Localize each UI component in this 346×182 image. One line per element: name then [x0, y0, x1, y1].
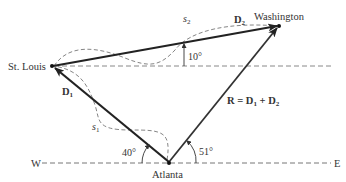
vector-d2 — [53, 26, 277, 66]
label-st-louis: St. Louis — [8, 61, 46, 72]
vector-diagram: St. Louis Washington Atlanta W E D1 D2 R… — [0, 0, 346, 182]
label-d1: D1 — [62, 86, 74, 99]
label-s2: s2 — [183, 13, 191, 26]
washington-dot — [277, 24, 281, 28]
label-angle-40: 40° — [122, 147, 136, 158]
label-washington: Washington — [254, 11, 305, 22]
vector-d1 — [55, 68, 169, 162]
label-atlanta: Atlanta — [152, 169, 183, 180]
label-angle-51: 51° — [199, 146, 213, 157]
angle-arc-40 — [142, 145, 149, 163]
label-east: E — [334, 158, 340, 169]
st-louis-dot — [50, 64, 54, 68]
label-resultant: R = D1 + D2 — [227, 95, 280, 108]
atlanta-dot — [167, 161, 171, 165]
label-angle-10: 10° — [188, 51, 202, 62]
label-s1: s1 — [92, 121, 100, 134]
angle-arc-51 — [187, 141, 196, 163]
label-west: W — [31, 158, 41, 169]
